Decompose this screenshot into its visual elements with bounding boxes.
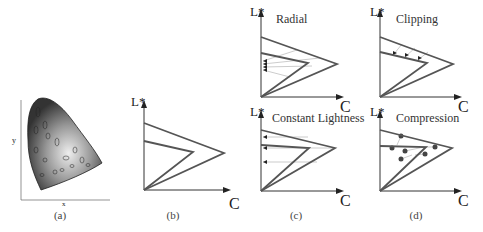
c-axis-arrow-icon [223,187,231,193]
panel-b-gamut-comparison: L* C (b) [120,0,250,232]
c-axis-label: C [229,195,240,213]
l-axis-label: L* [250,104,264,120]
l-axis-label: L* [370,4,384,20]
horizontal-arrowheads-icon [263,135,267,164]
compression-title: Compression [396,111,459,126]
spectral-locus [28,98,102,190]
panel-c-radial: L* Radial C [250,0,370,110]
caption-b: (b) [153,209,193,221]
panel-c-constant-lightness: L* Constant Lightness C (c) [250,110,370,232]
radial-arrowheads-icon [263,59,267,72]
y-axis-label: y [12,136,16,145]
radial-title: Radial [276,12,307,27]
caption-d: (d) [396,209,436,221]
inner-gamut [144,141,193,190]
panel-d-compression: L* Compression C (d) [370,110,483,232]
caption-a: (a) [40,209,80,221]
l-axis-label: L* [250,4,264,20]
chromaticity-plot [0,0,120,232]
radial-plot [250,0,370,110]
caption-c: (c) [276,209,316,221]
l-axis-label: L* [131,94,145,110]
l-axis-label: L* [370,104,384,120]
panel-d-clipping: L* Clipping C [370,0,483,110]
c-axis-label: C [340,192,351,210]
c-axis-label: C [458,192,469,210]
clipping-title: Clipping [396,12,438,27]
constant-lightness-title: Constant Lightness [272,111,364,126]
panel-a-chromaticity-diagram: y x (a) [0,0,120,232]
x-axis-label: x [62,200,66,208]
